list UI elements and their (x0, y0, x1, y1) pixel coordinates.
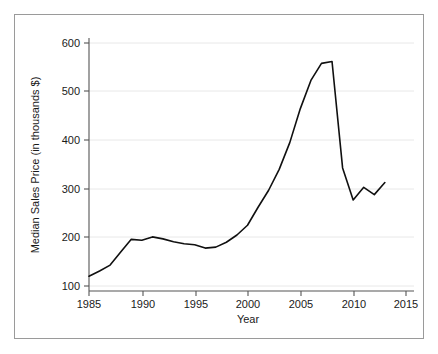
gridlines (89, 43, 414, 286)
x-tick-label-1985: 1985 (77, 298, 101, 310)
y-tick-label-100: 100 (62, 280, 80, 292)
x-axis-title: Year (237, 313, 260, 325)
y-tick-label-500: 500 (62, 85, 80, 97)
x-tick-label-2010: 2010 (342, 298, 366, 310)
y-axis-title: Median Sales Price (in thousands $) (29, 77, 41, 254)
series-line-median-sales-price (89, 61, 385, 276)
x-tick-label-1995: 1995 (184, 298, 208, 310)
y-axis: 600 500 400 300 200 100 Median Sales Pri… (29, 37, 89, 292)
y-tick-label-300: 300 (62, 183, 80, 195)
y-tick-label-200: 200 (62, 231, 80, 243)
x-tick-label-2015: 2015 (394, 298, 418, 310)
x-tick-label-1990: 1990 (131, 298, 155, 310)
chart-figure: 600 500 400 300 200 100 Median Sales Pri… (0, 0, 438, 354)
x-tick-label-2005: 2005 (289, 298, 313, 310)
line-chart-plot: 600 500 400 300 200 100 Median Sales Pri… (0, 0, 438, 354)
y-tick-label-600: 600 (62, 37, 80, 49)
x-tick-label-2000: 2000 (236, 298, 260, 310)
x-axis: 1985 1990 1995 2000 2005 2010 2015 Year (77, 291, 418, 325)
y-tick-label-400: 400 (62, 134, 80, 146)
